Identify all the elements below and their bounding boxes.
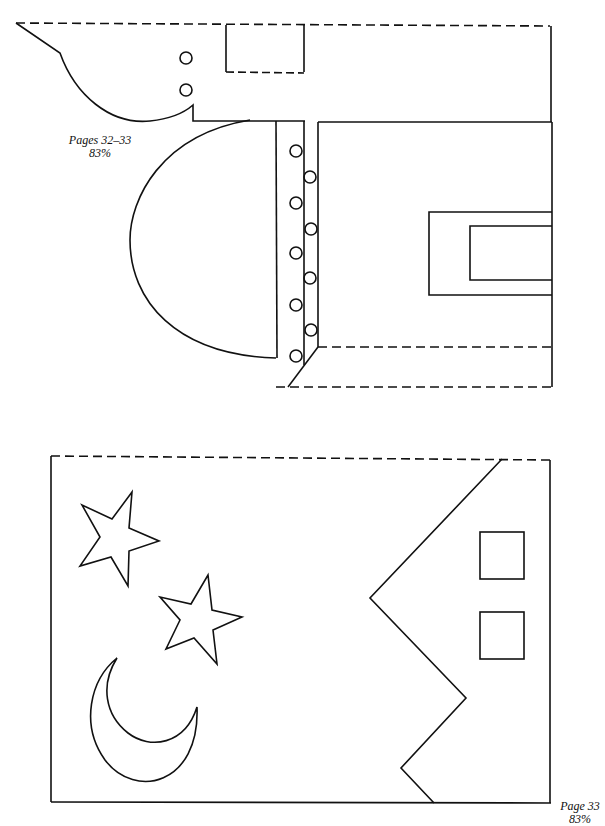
bottom-template xyxy=(51,456,551,803)
dashed-top-edge xyxy=(51,456,550,460)
hole-icon xyxy=(304,171,316,183)
hole-icon xyxy=(290,350,302,362)
fold-diagonal xyxy=(288,347,318,387)
inner-window-frame xyxy=(470,226,552,280)
hole-icon xyxy=(305,324,317,336)
dashed-top-edge xyxy=(16,23,550,26)
window-lower xyxy=(480,612,524,659)
hole-icon xyxy=(180,52,192,64)
hole-icon xyxy=(304,272,316,284)
template-drawing xyxy=(0,0,605,826)
caption-bottom: Page 33 83% xyxy=(556,800,604,826)
tab-rectangle-sides xyxy=(226,25,304,72)
caption-top: Pages 32–33 83% xyxy=(55,134,145,160)
caption-bottom-scale: 83% xyxy=(556,813,604,826)
hole-icon xyxy=(290,299,302,311)
bottom-edge xyxy=(51,802,551,803)
hole-icon xyxy=(180,84,192,96)
hole-icon xyxy=(290,197,302,209)
zigzag-building-edge xyxy=(370,459,502,803)
hole-icon xyxy=(290,247,302,259)
window-upper xyxy=(480,532,524,579)
curved-left-edge xyxy=(16,23,305,121)
star-small-icon xyxy=(160,575,242,664)
star-large-icon xyxy=(80,492,159,586)
top-template xyxy=(16,23,552,387)
strip-left xyxy=(276,121,277,358)
outer-window-frame xyxy=(429,212,552,295)
caption-top-scale: 83% xyxy=(55,147,145,160)
hole-icon xyxy=(305,223,317,235)
crescent-moon-icon xyxy=(91,658,197,781)
tab-rectangle-dashed-bottom xyxy=(226,72,304,73)
half-circle xyxy=(130,120,276,358)
hole-icon xyxy=(290,145,302,157)
